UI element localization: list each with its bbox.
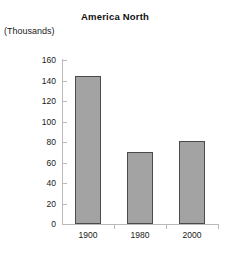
y-axis-tick-label: 60 <box>12 158 56 168</box>
y-axis-tick-label: 20 <box>12 199 56 209</box>
y-axis-tick <box>62 60 67 61</box>
bar <box>179 141 205 224</box>
chart-title: America North <box>0 11 230 22</box>
y-axis-tick <box>62 224 67 225</box>
y-axis-tick <box>62 204 67 205</box>
bar <box>127 152 153 224</box>
y-axis-tick <box>62 142 67 143</box>
y-axis-tick <box>62 163 67 164</box>
x-axis-tick <box>114 224 115 229</box>
y-axis-tick <box>62 81 67 82</box>
y-axis-tick-label: 140 <box>12 76 56 86</box>
y-axis-tick-label: 40 <box>12 178 56 188</box>
y-axis-tick <box>62 122 67 123</box>
x-axis-tick <box>218 224 219 229</box>
bar <box>75 76 101 224</box>
y-axis-tick <box>62 101 67 102</box>
bar-chart: America North (Thousands) 16014012010080… <box>0 0 230 258</box>
x-axis-tick-label: 2000 <box>170 230 214 240</box>
y-axis-tick-label: 0 <box>12 219 56 229</box>
y-axis-tick-label: 100 <box>12 117 56 127</box>
y-axis-tick-label: 80 <box>12 137 56 147</box>
x-axis-tick-label: 1900 <box>66 230 110 240</box>
y-axis-tick-label: 160 <box>12 55 56 65</box>
y-axis-units-label: (Thousands) <box>4 26 55 36</box>
x-axis-tick <box>166 224 167 229</box>
x-axis-line <box>62 224 218 225</box>
y-axis-tick <box>62 183 67 184</box>
x-axis-tick-label: 1980 <box>118 230 162 240</box>
y-axis-tick-label: 120 <box>12 96 56 106</box>
